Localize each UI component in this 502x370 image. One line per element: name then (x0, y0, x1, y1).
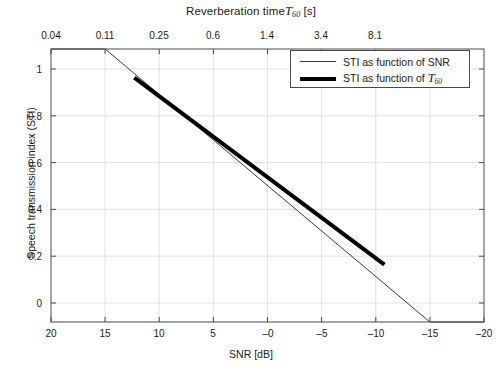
legend-label-t60-sub: 60 (435, 77, 443, 86)
bottom-tick-label-6: –10 (368, 328, 385, 339)
legend-swatch-thick-icon (299, 77, 337, 81)
legend-label-t60-main: STI as function of (343, 72, 428, 84)
bottom-tick-label-2: 10 (153, 328, 164, 339)
x-axis-label: SNR [dB] (0, 348, 502, 360)
legend-label-t60-symbol: T (428, 71, 435, 85)
legend-label-snr: STI as function of SNR (343, 56, 450, 68)
left-axis-ticks (51, 69, 56, 303)
y-tick-label-0: 0 (8, 298, 42, 309)
bottom-tick-label-1: 15 (99, 328, 110, 339)
legend-label-t60: STI as function of T60 (343, 71, 442, 86)
legend-item-t60: STI as function of T60 (291, 70, 469, 87)
bottom-tick-label-7: –15 (422, 328, 439, 339)
right-axis-ticks (479, 69, 484, 303)
y-axis-label: Speech transmission index (STI) (25, 73, 37, 293)
legend-item-snr: STI as function of SNR (291, 53, 469, 70)
bottom-tick-label-3: 5 (210, 328, 216, 339)
bottom-axis-ticks (51, 317, 484, 322)
bottom-tick-label-4: –0 (262, 328, 273, 339)
legend: STI as function of SNR STI as function o… (290, 50, 470, 88)
bottom-tick-label-0: 20 (45, 328, 56, 339)
bottom-tick-label-8: –20 (476, 328, 493, 339)
bottom-tick-label-5: –5 (316, 328, 327, 339)
chart-figure: Reverberation timeT60 [s] 0.04 0.11 0.25… (0, 0, 502, 370)
series-line-t60 (134, 78, 384, 265)
legend-swatch-thin-icon (299, 61, 337, 62)
